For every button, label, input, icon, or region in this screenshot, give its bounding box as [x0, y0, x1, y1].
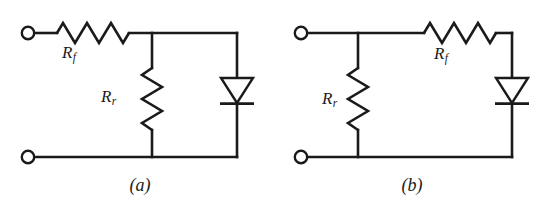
terminal-bottom-a[interactable] [22, 151, 34, 163]
resistor-a-rf-label: Rf [62, 44, 76, 64]
circuit-a [22, 23, 254, 163]
resistor-a-rr-zigzag [142, 68, 162, 130]
resistor-a-rr-label: Rr [101, 88, 116, 108]
resistor-a-rf-zigzag [57, 23, 129, 43]
diode-b-triangle [496, 78, 528, 103]
resistor-a-rr-label-main: R [101, 87, 111, 106]
resistor-b-rr-label-main: R [322, 89, 332, 108]
resistor-a-rf-label-main: R [62, 43, 72, 62]
caption-circuit-b: (b) [382, 176, 442, 194]
resistor-b-rf-label: Rf [434, 45, 448, 65]
diode-a-triangle [221, 78, 253, 103]
resistor-b-rr-zigzag [348, 68, 368, 130]
resistor-a-rf-label-subscript: f [72, 51, 76, 63]
terminal-bottom-b[interactable] [295, 151, 307, 163]
resistor-b-rf-zigzag [424, 23, 496, 43]
resistor-b-rf-label-main: R [434, 44, 444, 63]
figure-root: Rf Rr Rf Rr (a) (b) [0, 0, 553, 211]
resistor-a-rr-label-subscript: r [111, 95, 116, 107]
terminal-top-b[interactable] [295, 27, 307, 39]
caption-circuit-a: (a) [110, 176, 170, 194]
resistor-b-rf-label-subscript: f [444, 52, 448, 64]
terminal-top-a[interactable] [22, 27, 34, 39]
circuit-diagram-canvas [0, 0, 553, 211]
resistor-b-rr-label-subscript: r [332, 97, 337, 109]
resistor-b-rr-label: Rr [322, 90, 337, 110]
